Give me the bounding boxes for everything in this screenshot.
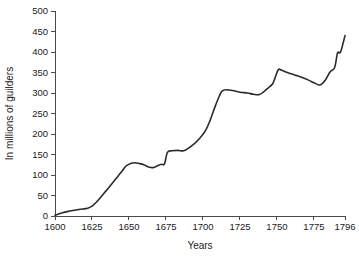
y-axis-title: In millions of guilders: [4, 67, 15, 160]
y-tick-label: 0: [43, 210, 48, 221]
x-axis-title: Years: [187, 240, 212, 251]
y-tick-label: 350: [32, 67, 48, 78]
y-tick-label: 150: [32, 149, 48, 160]
x-tick-label: 1675: [155, 221, 176, 232]
chart-container: 050100150200250300350400450500 160016251…: [0, 0, 359, 257]
x-tick-label: 1775: [303, 221, 324, 232]
x-tick-label: 1725: [229, 221, 250, 232]
x-tick-label: 1750: [266, 221, 287, 232]
x-tick-label: 1650: [118, 221, 139, 232]
y-tick-label: 200: [32, 128, 48, 139]
y-tick-label: 400: [32, 46, 48, 57]
y-tick-label: 100: [32, 169, 48, 180]
chart-background: [0, 0, 359, 257]
x-tick-label: 1700: [192, 221, 213, 232]
line-chart: 050100150200250300350400450500 160016251…: [0, 0, 359, 257]
x-tick-label: 1600: [44, 221, 65, 232]
x-tick-label: 1625: [81, 221, 102, 232]
y-tick-label: 500: [32, 5, 48, 16]
y-tick-label: 450: [32, 26, 48, 37]
y-tick-label: 300: [32, 87, 48, 98]
y-tick-label: 50: [37, 190, 48, 201]
y-tick-label: 250: [32, 108, 48, 119]
x-tick-label: 1796: [334, 221, 355, 232]
